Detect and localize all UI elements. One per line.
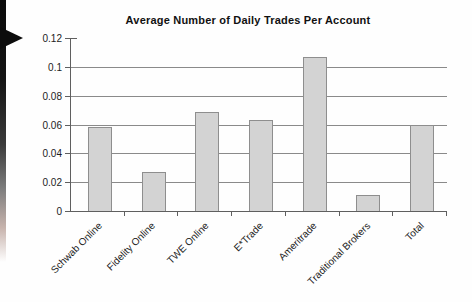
bar-e-trade xyxy=(249,120,273,211)
x-axis-tick xyxy=(177,211,178,216)
x-axis-label-fidelity-online: Fidelity Online xyxy=(105,220,158,273)
scanned-page: Average Number of Daily Trades Per Accou… xyxy=(0,0,472,302)
y-axis-tick xyxy=(65,96,71,97)
y-axis-tick xyxy=(65,211,71,212)
y-axis-tick xyxy=(71,38,77,39)
x-axis-tick xyxy=(446,211,447,216)
x-axis-label-twe-online: TWE Online xyxy=(165,220,211,266)
y-axis-tick xyxy=(65,182,71,183)
bar-total xyxy=(410,125,434,212)
x-axis-label-total: Total xyxy=(403,220,426,243)
plot-area: 00.020.040.060.080.10.12Schwab OnlineFid… xyxy=(70,38,447,212)
x-axis-tick xyxy=(285,211,286,216)
y-axis-label: 0.06 xyxy=(43,119,62,130)
y-axis-label: 0.12 xyxy=(43,33,62,44)
y-axis-label: 0 xyxy=(56,206,62,217)
x-axis-tick xyxy=(124,211,125,216)
y-axis-label: 0.04 xyxy=(43,148,62,159)
bar-twe-online xyxy=(195,112,219,211)
y-axis-label: 0.08 xyxy=(43,90,62,101)
x-axis-label-schwab-online: Schwab Online xyxy=(48,220,103,275)
y-axis-tick xyxy=(65,38,71,39)
y-axis-tick xyxy=(65,153,71,154)
x-axis-label-e-trade: E*Trade xyxy=(231,220,264,253)
gridline xyxy=(71,96,447,97)
y-axis-tick xyxy=(65,125,71,126)
chart-title: Average Number of Daily Trades Per Accou… xyxy=(60,14,436,26)
gridline xyxy=(71,67,447,68)
x-axis-tick xyxy=(231,211,232,216)
y-axis-tick xyxy=(65,67,71,68)
x-axis-label-ameritrade: Ameritrade xyxy=(276,220,318,262)
bar-ameritrade xyxy=(303,57,327,211)
y-axis-label: 0.02 xyxy=(43,177,62,188)
bookmark-arrow-icon xyxy=(0,27,23,49)
bar-schwab-online xyxy=(88,127,112,211)
bar-fidelity-online xyxy=(142,172,166,211)
bar-traditional-brokers xyxy=(356,195,380,211)
x-axis-tick xyxy=(392,211,393,216)
x-axis-tick xyxy=(339,211,340,216)
y-axis-label: 0.1 xyxy=(48,61,62,72)
